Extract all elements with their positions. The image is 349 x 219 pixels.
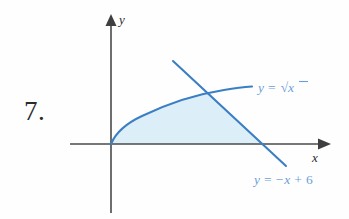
line-label-num: 6 [306, 172, 313, 187]
x-axis-arrow-icon [318, 139, 331, 150]
linear-curve-label: y=−x+6 [252, 172, 313, 187]
line-label-eq: = [264, 172, 272, 187]
graph-figure: y x y=√x y=−x+6 [0, 0, 349, 219]
x-axis-label: x [311, 150, 318, 165]
svg-text:y=√x: y=√x [256, 80, 294, 95]
line-label-sign: − [276, 172, 284, 187]
sqrt-curve-label: y=√x [256, 80, 308, 95]
svg-text:y=−x+6: y=−x+6 [252, 172, 313, 187]
line-label-plus: + [294, 172, 302, 187]
figure-container: 7. y x y=√x y=−x+6 [0, 0, 349, 219]
shaded-region [111, 92, 262, 144]
sqrt-label-eq: = [268, 80, 276, 95]
y-axis-arrow-icon [106, 14, 117, 26]
line-label-lhs: y [252, 172, 260, 187]
sqrt-label-radicand: x [287, 80, 294, 95]
sqrt-label-lhs: y [256, 80, 264, 95]
line-label-var: x [283, 172, 290, 187]
y-axis-label: y [117, 12, 125, 27]
